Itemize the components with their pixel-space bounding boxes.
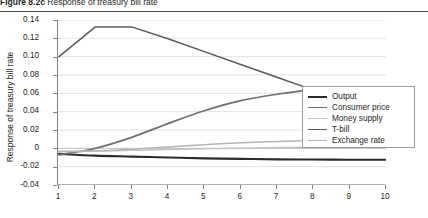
x-tick-label: 10 xyxy=(375,192,395,201)
chart-legend: OutputConsumer priceMoney supplyT-billEx… xyxy=(302,86,415,148)
x-tick-mark xyxy=(167,185,168,189)
legend-swatch-icon xyxy=(308,107,327,108)
figure-container: Response of treasury bill rate 0.140.120… xyxy=(0,14,428,218)
x-tick-mark xyxy=(131,185,132,189)
caption-divider xyxy=(0,11,428,12)
x-tick-label: 1 xyxy=(48,192,68,201)
y-tick-label: 0.08 xyxy=(5,71,39,79)
x-tick-mark xyxy=(349,185,350,189)
x-tick-mark xyxy=(312,185,313,189)
y-tick-label: 0 xyxy=(5,144,39,152)
legend-swatch-icon xyxy=(308,140,327,141)
x-tick-label: 5 xyxy=(193,192,213,201)
x-tick-label: 4 xyxy=(157,192,177,201)
legend-item: Exchange rate xyxy=(308,135,414,146)
legend-swatch-icon xyxy=(308,96,327,98)
y-tick-label: 0.06 xyxy=(5,89,39,97)
y-tick-label: 0.04 xyxy=(5,107,39,115)
figure-caption: Figure 8.2c Response of treasury bill ra… xyxy=(0,0,428,11)
y-tick-label: 0.14 xyxy=(5,16,39,24)
legend-item: Money supply xyxy=(308,113,414,124)
y-tick-label: 0.02 xyxy=(5,126,39,134)
y-tick-label: 0.12 xyxy=(5,34,39,42)
x-tick-mark xyxy=(94,185,95,189)
legend-item-label: Consumer price xyxy=(332,103,390,112)
legend-swatch-icon xyxy=(308,118,327,119)
y-tick-label: -0.02 xyxy=(5,162,39,170)
x-tick-label: 8 xyxy=(302,192,322,201)
x-tick-label: 3 xyxy=(121,192,141,201)
x-tick-mark xyxy=(385,185,386,189)
legend-item-label: T-bill xyxy=(332,125,349,134)
x-tick-mark xyxy=(240,185,241,189)
x-tick-mark xyxy=(58,185,59,189)
y-tick-mark xyxy=(53,185,57,186)
legend-item: T-bill xyxy=(308,124,414,135)
y-tick-label: -0.04 xyxy=(5,181,39,189)
y-tick-label: 0.10 xyxy=(5,52,39,60)
legend-item: Consumer price xyxy=(308,102,414,113)
figure-title: Response of treasury bill rate xyxy=(47,0,158,7)
x-tick-mark xyxy=(203,185,204,189)
legend-item: Output xyxy=(308,91,414,102)
x-tick-label: 7 xyxy=(266,192,286,201)
x-tick-label: 6 xyxy=(230,192,250,201)
x-tick-label: 2 xyxy=(84,192,104,201)
legend-item-label: Money supply xyxy=(332,114,383,123)
series-line-output xyxy=(59,154,386,160)
x-tick-label: 9 xyxy=(339,192,359,201)
legend-swatch-icon xyxy=(308,129,327,130)
legend-item-label: Exchange rate xyxy=(332,136,385,145)
figure-number: Figure 8.2c xyxy=(0,0,45,7)
legend-item-label: Output xyxy=(332,92,357,101)
x-tick-mark xyxy=(276,185,277,189)
